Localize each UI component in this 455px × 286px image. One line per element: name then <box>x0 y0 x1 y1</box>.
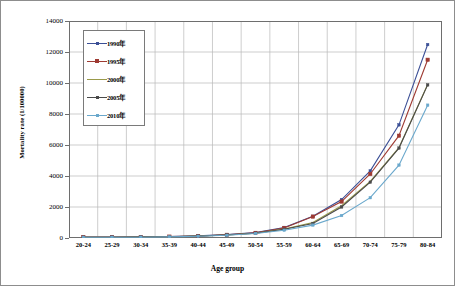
y-tick-label: 2000 <box>23 204 63 211</box>
y-tick-label: 6000 <box>23 142 63 149</box>
legend-label: 1995年 <box>107 56 126 66</box>
y-tick-label: 8000 <box>23 111 63 118</box>
y-tick-label: 14000 <box>23 18 63 25</box>
legend-marker-icon <box>87 39 107 48</box>
x-axis-title: Age group <box>1 264 454 273</box>
y-tick-mark <box>65 238 69 239</box>
legend-label: 1990年 <box>107 38 126 48</box>
x-tick-label: 80-84 <box>408 242 448 249</box>
legend-marker-icon <box>87 57 107 66</box>
legend-marker-icon <box>87 111 107 120</box>
legend-marker-icon <box>87 75 107 84</box>
chart-legend: 1990年1995年2000年2005年2010年 <box>83 30 145 126</box>
legend-item[interactable]: 1995年 <box>87 52 142 70</box>
legend-item[interactable]: 2000年 <box>87 70 142 88</box>
y-tick-label: 4000 <box>23 173 63 180</box>
legend-label: 2010年 <box>107 110 126 120</box>
y-tick-label: 0 <box>23 235 63 242</box>
legend-item[interactable]: 1990年 <box>87 34 142 52</box>
y-tick-label: 12000 <box>23 49 63 56</box>
chart-figure: Mortality rate (1/100000) Age group 0200… <box>0 0 455 286</box>
y-tick-label: 10000 <box>23 80 63 87</box>
legend-label: 2005年 <box>107 92 126 102</box>
legend-marker-icon <box>87 93 107 102</box>
legend-item[interactable]: 2005年 <box>87 88 142 106</box>
legend-item[interactable]: 2010年 <box>87 106 142 124</box>
legend-label: 2000年 <box>107 74 126 84</box>
